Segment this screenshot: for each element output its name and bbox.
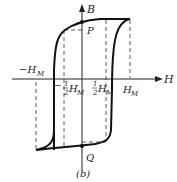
tick-neg-hm-text: −H [19,64,36,75]
point-p-label: P [86,25,94,36]
b-axis-arrow [79,4,85,12]
tick-label-neg-hm: −H M [19,64,45,78]
tick-hm-sub: M [130,90,139,98]
hysteresis-diagram: B H P Q −H M H M − 1 2 H M 1 2 H M (b) [0,0,177,182]
tick-label-hm: H M [122,84,139,98]
point-q-label: Q [86,152,94,163]
point-p [80,20,84,24]
axis-h-label: H [163,73,174,86]
h-axis-arrow [155,76,163,82]
tick-neg-half-sub: M [76,89,85,97]
tick-neg-half-num: 1 [64,80,68,88]
tick-half-num: 1 [93,80,97,88]
hysteresis-lower-left-curve [36,130,54,150]
tick-half-sub: M [105,89,114,97]
tick-label-neg-half-hm: − 1 2 H M [54,80,85,97]
point-q [80,144,84,148]
axis-b-label: B [86,3,95,16]
tick-neg-hm-sub: M [36,70,45,78]
hysteresis-lower-branch [36,19,130,150]
figure-caption: (b) [76,168,90,179]
tick-label-half-hm: 1 2 H M [92,80,114,97]
tick-neg-half-minus: − [54,80,62,90]
